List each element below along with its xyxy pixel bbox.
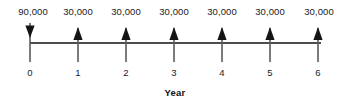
axis-title: Year [0, 87, 350, 98]
cash-flow-arrow-year-6 [313, 27, 322, 62]
year-tick-label-5: 5 [250, 67, 290, 78]
arrow-head-up-icon-year-3 [169, 27, 178, 40]
cash-flow-arrow-year-4 [217, 27, 226, 62]
cash-flow-arrow-year-3 [169, 27, 178, 62]
arrow-head-up-icon-year-2 [121, 27, 130, 40]
year-tick-label-2: 2 [106, 67, 146, 78]
cash-flow-timeline-diagram: 90,000 30,000 30,000 30,000 30,000 30,00… [0, 0, 350, 106]
year-tick-label-1: 1 [58, 67, 98, 78]
arrow-head-up-icon-year-6 [313, 27, 322, 40]
arrow-head-up-icon-year-5 [265, 27, 274, 40]
year-tick-label-4: 4 [202, 67, 242, 78]
cash-flow-arrow-year-5 [265, 27, 274, 62]
arrow-head-down-icon-year-0 [25, 26, 34, 39]
cash-flow-arrow-year-2 [121, 27, 130, 62]
amount-label-year-6: 30,000 [289, 6, 349, 17]
year-tick-label-0: 0 [10, 67, 50, 78]
year-tick-label-6: 6 [298, 67, 338, 78]
cash-flow-arrow-year-1 [73, 27, 82, 62]
arrow-head-up-icon-year-1 [73, 27, 82, 40]
year-tick-label-3: 3 [154, 67, 194, 78]
arrow-head-up-icon-year-4 [217, 27, 226, 40]
